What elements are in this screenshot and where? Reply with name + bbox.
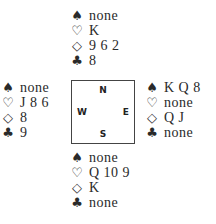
north-hearts-row: ♡ K — [70, 23, 120, 38]
east-hearts-cards: none — [164, 95, 193, 110]
west-diamonds-row: ◇ 8 — [1, 110, 49, 125]
east-diamonds-cards: Q J — [164, 110, 185, 125]
compass-south-label: S — [72, 129, 134, 139]
north-clubs-cards: 8 — [89, 53, 97, 68]
west-hearts-cards: J 8 6 — [20, 95, 49, 110]
north-spades-cards: none — [89, 8, 118, 23]
heart-icon: ♡ — [70, 165, 84, 180]
diamond-icon: ◇ — [145, 110, 159, 125]
south-hand: ♠ none ♡ Q 10 9 ◇ K ♣ none — [70, 150, 130, 210]
heart-icon: ♡ — [145, 95, 159, 110]
south-hearts-row: ♡ Q 10 9 — [70, 165, 130, 180]
compass-east-label: E — [123, 107, 129, 117]
west-diamonds-cards: 8 — [20, 110, 28, 125]
club-icon: ♣ — [1, 125, 15, 140]
east-clubs-row: ♣ none — [145, 125, 201, 140]
north-clubs-row: ♣ 8 — [70, 53, 120, 68]
club-icon: ♣ — [70, 53, 84, 68]
south-spades-cards: none — [89, 150, 118, 165]
spade-icon: ♠ — [70, 150, 84, 165]
north-hearts-cards: K — [89, 23, 100, 38]
east-diamonds-row: ◇ Q J — [145, 110, 201, 125]
west-clubs-cards: 9 — [20, 125, 28, 140]
east-spades-row: ♠ K Q 8 — [145, 80, 201, 95]
north-diamonds-cards: 9 6 2 — [89, 38, 120, 53]
west-spades-row: ♠ none — [1, 80, 49, 95]
club-icon: ♣ — [145, 125, 159, 140]
west-clubs-row: ♣ 9 — [1, 125, 49, 140]
east-spades-cards: K Q 8 — [164, 80, 201, 95]
spade-icon: ♠ — [70, 8, 84, 23]
south-clubs-cards: none — [89, 195, 118, 210]
club-icon: ♣ — [70, 195, 84, 210]
south-clubs-row: ♣ none — [70, 195, 130, 210]
north-spades-row: ♠ none — [70, 8, 120, 23]
diamond-icon: ◇ — [70, 38, 84, 53]
east-hearts-row: ♡ none — [145, 95, 201, 110]
east-hand: ♠ K Q 8 ♡ none ◇ Q J ♣ none — [145, 80, 201, 140]
compass-north-label: N — [72, 85, 134, 95]
east-clubs-cards: none — [164, 125, 193, 140]
diamond-icon: ◇ — [70, 180, 84, 195]
heart-icon: ♡ — [70, 23, 84, 38]
south-hearts-cards: Q 10 9 — [89, 165, 130, 180]
south-spades-row: ♠ none — [70, 150, 130, 165]
south-diamonds-cards: K — [89, 180, 100, 195]
spade-icon: ♠ — [1, 80, 15, 95]
west-hand: ♠ none ♡ J 8 6 ◇ 8 ♣ 9 — [1, 80, 49, 140]
west-hearts-row: ♡ J 8 6 — [1, 95, 49, 110]
south-diamonds-row: ◇ K — [70, 180, 130, 195]
heart-icon: ♡ — [1, 95, 15, 110]
spade-icon: ♠ — [145, 80, 159, 95]
compass-box: N W E S — [71, 80, 135, 144]
diamond-icon: ◇ — [1, 110, 15, 125]
compass-west-label: W — [77, 107, 87, 117]
west-spades-cards: none — [20, 80, 49, 95]
north-diamonds-row: ◇ 9 6 2 — [70, 38, 120, 53]
north-hand: ♠ none ♡ K ◇ 9 6 2 ♣ 8 — [70, 8, 120, 68]
